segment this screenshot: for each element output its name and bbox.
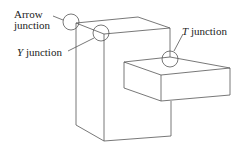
arrow-junction-label: Arrow junction (14, 9, 50, 31)
arrow-leader (53, 16, 63, 20)
small-box-top-face (124, 57, 230, 75)
t-junction-label: T junction (182, 26, 227, 37)
small-box-bottom-right (161, 95, 230, 101)
y-leader (68, 38, 94, 51)
large-box-bottom-left (76, 125, 104, 141)
t-label-rest: junction (188, 25, 227, 37)
large-box-bottom-right (104, 136, 171, 141)
y-junction-label: Y junction (17, 47, 62, 58)
arrow-label-line2: junction (14, 20, 50, 31)
small-box-bottom-left (124, 88, 161, 101)
large-box-top-face (76, 17, 170, 34)
y-label-rest: junction (23, 46, 62, 58)
arrow-junction-circle (63, 14, 79, 30)
